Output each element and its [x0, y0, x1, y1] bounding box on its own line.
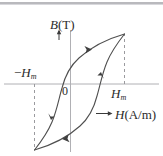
- h-max-positive-subscript: m: [120, 93, 126, 102]
- h-axis-symbol: H: [115, 107, 124, 122]
- h-axis-label: H(A/m): [115, 108, 156, 121]
- b-axis-symbol: B: [50, 17, 58, 32]
- origin-label: 0: [62, 85, 68, 97]
- hysteresis-figure: B(T) −Hm Hm 0 H(A/m): [0, 0, 163, 156]
- h-max-negative-subscript: m: [31, 72, 37, 81]
- h-max-negative-label: −Hm: [14, 66, 37, 79]
- b-axis-unit: (T): [58, 17, 75, 32]
- h-max-negative-symbol: H: [21, 65, 30, 80]
- h-axis-pointer-arrow: [96, 111, 113, 115]
- h-max-positive-label: Hm: [111, 87, 126, 100]
- h-max-positive-symbol: H: [111, 86, 120, 101]
- direction-arrow-descending-lower: [62, 135, 70, 143]
- h-axis-unit: (A/m): [124, 107, 156, 122]
- b-axis-label: B(T): [50, 18, 75, 31]
